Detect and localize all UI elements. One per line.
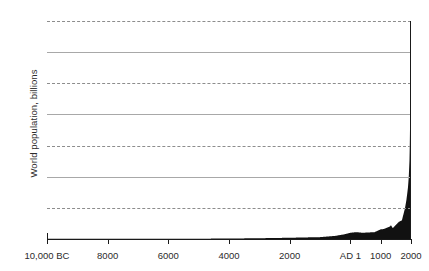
population-area-series [47,21,411,239]
x-tick-label-1: 8000 [97,250,118,261]
right-axis-line [410,21,411,240]
x-tick-mark-6 [381,239,382,244]
x-tick-label-0: 10,000 BC [25,250,70,261]
x-tick-mark-4 [290,239,291,244]
gridline-6 [47,52,411,53]
x-tick-mark-5 [350,239,351,244]
x-tick-mark-0 [47,239,48,244]
x-tick-mark-2 [168,239,169,244]
cropped-title-strip [0,0,429,8]
plot-area [47,21,411,239]
x-tick-label-3: 4000 [218,250,239,261]
gridline-5 [47,83,411,84]
x-tick-label-4: 2000 [279,250,300,261]
gridline-4 [47,114,411,115]
x-tick-label-5: AD 1 [340,250,361,261]
x-tick-mark-1 [108,239,109,244]
x-tick-label-6: 1000 [370,250,391,261]
gridline-2 [47,177,411,178]
x-tick-mark-7 [411,239,412,244]
gridline-3 [47,146,411,147]
chart-figure: World population, billions 76543210 10,0… [0,0,429,271]
gridline-1 [47,208,411,209]
y-axis-title: World population, billions [28,44,39,204]
x-tick-label-2: 6000 [158,250,179,261]
x-tick-mark-3 [229,239,230,244]
gridline-7 [47,21,411,22]
x-tick-label-7: 2000 [400,250,421,261]
